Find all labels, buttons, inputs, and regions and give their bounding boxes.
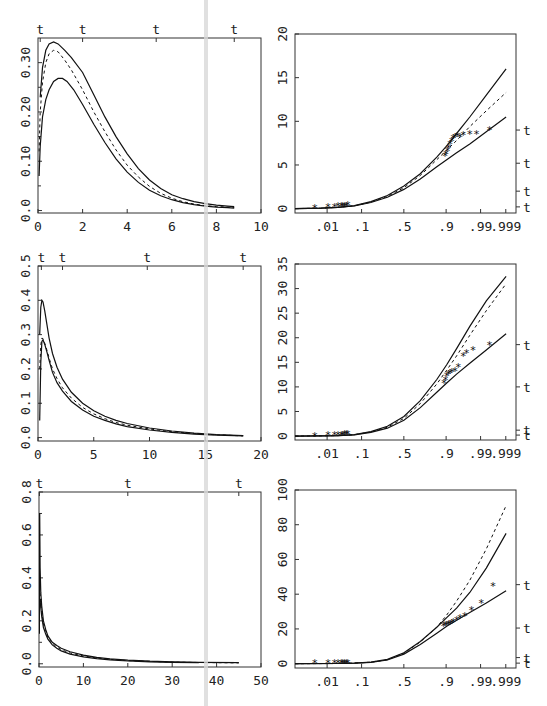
y-tick-label: 35 [275, 256, 290, 272]
y-tick-label: 0 [275, 432, 290, 440]
series-estimate [40, 338, 244, 436]
x-tick-label: 30 [164, 673, 180, 688]
data-point-star: * [470, 344, 476, 357]
x-tick-label: 4 [123, 219, 131, 234]
x-tick-label: .9 [438, 219, 454, 234]
t-mark-label: t [37, 250, 45, 265]
t-mark-label: t [152, 22, 160, 37]
t-mark-label: t [523, 200, 531, 215]
t-mark-label: t [59, 250, 67, 265]
x-tick-label: .99 [469, 446, 492, 461]
data-point-star: * [464, 347, 470, 360]
y-tick-label: 15 [275, 70, 290, 86]
y-tick-label: 100 [275, 478, 290, 501]
t-mark-label: t [230, 22, 238, 37]
data-point-star: * [345, 199, 351, 212]
data-point-star: * [467, 128, 473, 141]
y-tick-label: 0 [275, 660, 290, 668]
x-tick-label: 5 [90, 447, 98, 462]
plot-frame [295, 264, 516, 440]
x-tick-label: .1 [354, 219, 370, 234]
x-tick-label: .9 [438, 674, 454, 689]
series-upper-bound [39, 514, 238, 663]
chart-panel-bottom-right: .01.1.5.9.99.999020406080100tttt********… [275, 478, 531, 689]
data-point-star: * [345, 657, 351, 670]
x-tick-label: 0 [34, 219, 42, 234]
series-upper-bound [295, 533, 506, 663]
x-tick-label: 8 [212, 219, 220, 234]
y-tick-label: 20 [275, 621, 290, 637]
chart-panel-middle-right: .01.1.5.9.99.99905101520253035tttt******… [275, 256, 531, 461]
data-point-star: * [469, 604, 475, 617]
y-tick-label: 25 [275, 305, 290, 321]
x-tick-label: .999 [490, 219, 521, 234]
y-tick-label: 20 [275, 26, 290, 42]
x-tick-label: .99 [469, 219, 492, 234]
data-point-star: * [325, 201, 331, 214]
right-t-marks: tttt [516, 123, 531, 215]
y-tick-label: 20 [275, 330, 290, 346]
top-t-marks: ttt [36, 476, 243, 496]
chart-panel-top-left: 02468100.00.100.200.30tttt [18, 22, 269, 234]
t-mark-label: t [239, 250, 247, 265]
right-t-marks: tttt [516, 338, 531, 443]
data-point-star: * [312, 202, 318, 215]
y-tick-label: 0.30 [18, 47, 33, 78]
y-tick-label: 0.6 [19, 523, 34, 546]
observed-points: *********************** [312, 124, 493, 215]
y-tick-label: 0.0 [18, 199, 33, 222]
t-mark-label: t [523, 123, 531, 138]
t-mark-label: t [523, 423, 531, 438]
observed-points: ********************* [312, 339, 493, 443]
x-tick-label: 50 [253, 673, 269, 688]
x-tick-label: 10 [253, 219, 269, 234]
y-tick-label: 60 [275, 552, 290, 568]
y-tick-label: 0.0 [19, 652, 34, 675]
x-tick-label: .9 [438, 446, 454, 461]
x-tick-label: .999 [490, 446, 521, 461]
y-tick-label: 15 [275, 354, 290, 370]
x-tick-label: .01 [315, 219, 338, 234]
chart-panel-top-right: .01.1.5.9.99.99905101520tttt************… [275, 26, 531, 234]
t-mark-label: t [523, 578, 531, 593]
t-mark-label: t [523, 651, 531, 666]
x-tick-label: .1 [354, 674, 370, 689]
y-tick-label: 30 [275, 281, 290, 297]
y-tick-label: 0.3 [18, 323, 33, 346]
x-tick-label: .1 [354, 446, 370, 461]
x-tick-label: 10 [142, 447, 158, 462]
t-mark-label: t [36, 22, 44, 37]
t-mark-label: t [235, 476, 243, 491]
y-tick-label: 40 [275, 586, 290, 602]
x-tick-label: 20 [253, 447, 269, 462]
series-upper-bound [40, 300, 244, 435]
y-tick-label: 0.20 [18, 96, 33, 127]
plot-frame [38, 266, 261, 441]
y-tick-label: 0.1 [18, 392, 33, 415]
data-point-star: * [474, 128, 480, 141]
right-t-marks: tttt [516, 578, 531, 671]
y-tick-label: 0.10 [18, 146, 33, 177]
y-tick-label: 5 [275, 408, 290, 416]
data-point-star: * [325, 429, 331, 442]
y-tick-label: 0.5 [18, 254, 33, 277]
x-tick-label: 20 [120, 673, 136, 688]
t-mark-label: t [523, 156, 531, 171]
top-t-marks: tttt [37, 250, 247, 270]
y-tick-label: 0 [275, 205, 290, 213]
chart-panel-middle-left: 051015200.00.10.20.30.40.5tttt [18, 250, 269, 462]
data-point-star: * [490, 580, 496, 593]
x-tick-label: .999 [490, 674, 521, 689]
t-mark-label: t [124, 476, 132, 491]
y-tick-label: 0.0 [18, 426, 33, 449]
y-tick-label: 0.4 [18, 288, 33, 312]
y-tick-label: 0.2 [19, 609, 34, 632]
x-tick-label: 6 [168, 219, 176, 234]
figure-canvas: 02468100.00.100.200.30tttt.01.1.5.9.99.9… [0, 0, 547, 706]
plot-frame [295, 490, 516, 668]
x-tick-label: 10 [76, 673, 92, 688]
page-fold-shadow [204, 0, 208, 706]
t-mark-label: t [79, 22, 87, 37]
x-tick-label: 0 [35, 673, 43, 688]
t-mark-label: t [523, 338, 531, 353]
